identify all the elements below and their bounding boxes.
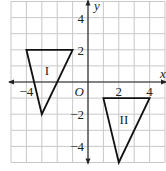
y-axis-arrow-down-icon — [86, 159, 91, 165]
triangle-label: I — [45, 63, 49, 78]
axes — [8, 0, 166, 165]
x-axis-label: x — [159, 66, 166, 81]
x-tick-label: −4 — [19, 84, 33, 99]
x-tick-label: 2 — [116, 84, 123, 99]
origin-label: O — [75, 84, 85, 99]
y-axis-label: y — [92, 0, 100, 13]
y-tick-label: −2 — [70, 107, 84, 122]
coordinate-plane: III −42442−2−4Oxy — [0, 0, 166, 171]
y-tick-label: 2 — [78, 43, 85, 58]
x-tick-label: 4 — [146, 84, 153, 99]
y-tick-label: 4 — [78, 11, 85, 26]
y-tick-label: −4 — [70, 139, 84, 154]
triangle-label: II — [120, 112, 129, 127]
y-axis-arrow-up-icon — [86, 0, 91, 6]
